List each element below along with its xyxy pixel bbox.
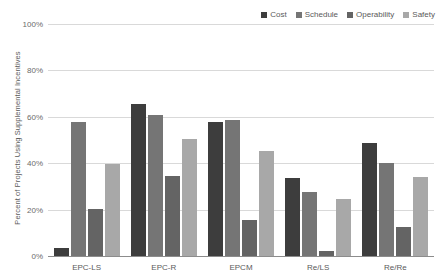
bar-groups: EPC-LSEPC-REPCMRe/LSRe/Re <box>48 25 434 257</box>
bar-group: Re/Re <box>357 25 434 257</box>
bar[interactable] <box>379 163 394 257</box>
bar-group: EPC-R <box>125 25 202 257</box>
bar[interactable] <box>182 139 197 257</box>
x-axis-category-label: EPC-LS <box>48 263 125 272</box>
bar[interactable] <box>413 177 428 257</box>
legend-swatch-icon <box>296 12 302 18</box>
y-axis-title: Percent of Projects Using Supplemental I… <box>12 8 24 268</box>
bar-chart: CostScheduleOperabilitySafety Percent of… <box>0 0 441 280</box>
legend-label: Safety <box>412 11 435 19</box>
chart-legend: CostScheduleOperabilitySafety <box>261 9 435 21</box>
legend-label: Cost <box>270 11 286 19</box>
bar[interactable] <box>362 143 377 257</box>
bar[interactable] <box>148 115 163 257</box>
x-axis-category-label: Re/Re <box>357 263 434 272</box>
bar[interactable] <box>336 199 351 257</box>
y-axis-tick-label: 80% <box>27 66 43 75</box>
bar[interactable] <box>105 164 120 257</box>
legend-label: Schedule <box>305 11 338 19</box>
x-axis-category-label: EPCM <box>202 263 279 272</box>
y-axis-tick-label: 40% <box>27 159 43 168</box>
x-axis-line <box>48 256 434 257</box>
bar-group: Re/LS <box>280 25 357 257</box>
bar[interactable] <box>242 220 257 257</box>
legend-label: Operability <box>356 11 394 19</box>
x-axis-category-label: Re/LS <box>280 263 357 272</box>
legend-entry[interactable]: Schedule <box>296 11 338 19</box>
x-axis-category-label: EPC-R <box>125 263 202 272</box>
legend-swatch-icon <box>261 12 267 18</box>
bar[interactable] <box>396 227 411 257</box>
legend-swatch-icon <box>347 12 353 18</box>
bar[interactable] <box>302 192 317 257</box>
bar[interactable] <box>165 176 180 257</box>
legend-entry[interactable]: Operability <box>347 11 394 19</box>
bar[interactable] <box>285 178 300 257</box>
legend-entry[interactable]: Safety <box>403 11 435 19</box>
legend-swatch-icon <box>403 12 409 18</box>
bar-group: EPC-LS <box>48 25 125 257</box>
bar[interactable] <box>259 151 274 257</box>
y-axis-tick-label: 60% <box>27 112 43 121</box>
legend-entry[interactable]: Cost <box>261 11 286 19</box>
bar-group: EPCM <box>202 25 279 257</box>
y-axis-tick-label: 20% <box>27 205 43 214</box>
bar[interactable] <box>71 122 86 257</box>
bar[interactable] <box>225 120 240 257</box>
y-axis-tick-label: 100% <box>23 20 43 29</box>
y-axis-tick-label: 0% <box>31 252 43 261</box>
bar[interactable] <box>131 104 146 257</box>
plot-area: 0%20%40%60%80%100% EPC-LSEPC-REPCMRe/LSR… <box>48 25 434 257</box>
bar[interactable] <box>88 209 103 257</box>
bar[interactable] <box>208 122 223 257</box>
